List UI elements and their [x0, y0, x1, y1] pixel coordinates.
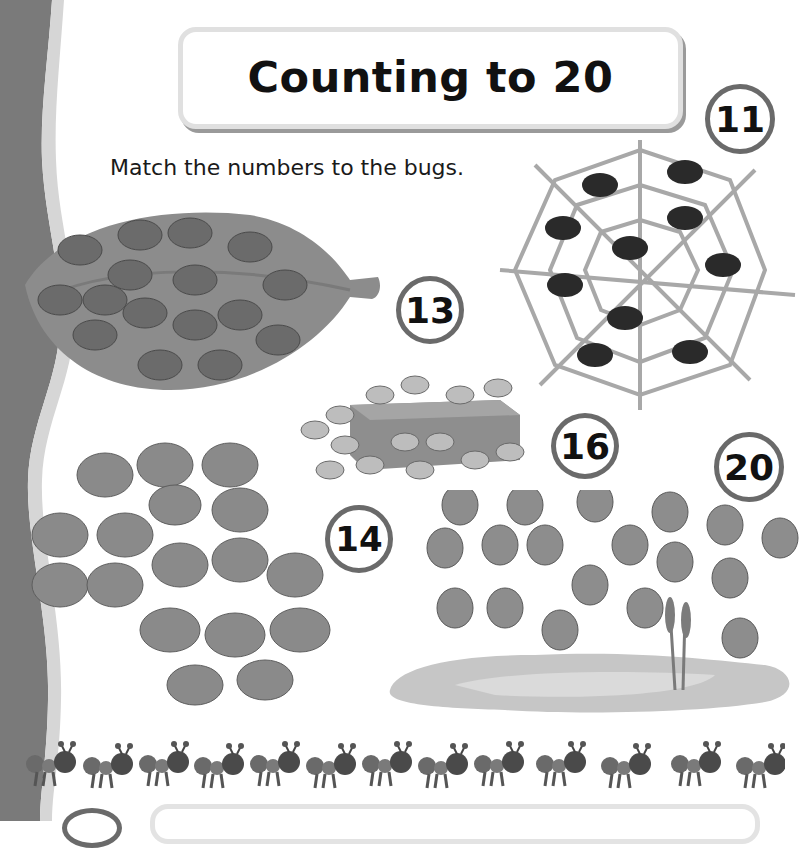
ants-row-illustration	[25, 738, 785, 793]
title-box: Counting to 20	[178, 27, 683, 129]
number-20-circle[interactable]: 20	[714, 432, 784, 502]
number-16-label: 16	[560, 426, 610, 467]
bottom-number-circle-partial	[62, 808, 122, 848]
page-title: Counting to 20	[183, 52, 678, 102]
leaf-ladybugs-illustration	[20, 205, 385, 395]
butterflies-illustration	[25, 430, 345, 710]
bottom-answer-box-partial	[150, 804, 760, 844]
pond-dragonflies-illustration	[385, 490, 806, 720]
number-20-label: 20	[724, 447, 774, 488]
spider-web-illustration	[495, 140, 800, 415]
instruction-text: Match the numbers to the bugs.	[110, 155, 464, 180]
number-13-circle[interactable]: 13	[396, 276, 464, 344]
number-11-circle[interactable]: 11	[705, 84, 775, 154]
number-14-circle[interactable]: 14	[325, 505, 393, 573]
number-11-label: 11	[715, 99, 765, 140]
number-14-label: 14	[335, 519, 382, 559]
number-13-label: 13	[405, 290, 455, 331]
number-16-circle[interactable]: 16	[551, 413, 619, 479]
